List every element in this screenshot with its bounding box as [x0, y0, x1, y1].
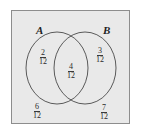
fraction-b-total: 7 12: [97, 104, 111, 122]
fraction-b-only-denominator: 12: [96, 56, 104, 64]
fraction-b-only: 3 12: [93, 47, 107, 65]
fraction-a-only: 2 12: [36, 49, 50, 67]
fraction-intersection: 4 12: [64, 63, 78, 81]
set-b-label: B: [103, 24, 110, 36]
set-a-label: A: [36, 24, 43, 36]
fraction-b-total-denominator: 12: [100, 113, 108, 121]
fraction-a-total: 6 12: [30, 103, 44, 121]
fraction-a-total-denominator: 12: [33, 112, 41, 120]
venn-diagram-figure: A B 2 12 4 12 3 12 6 12 7 12: [0, 0, 142, 134]
fraction-a-only-denominator: 12: [39, 58, 47, 66]
fraction-intersection-denominator: 12: [67, 72, 75, 80]
